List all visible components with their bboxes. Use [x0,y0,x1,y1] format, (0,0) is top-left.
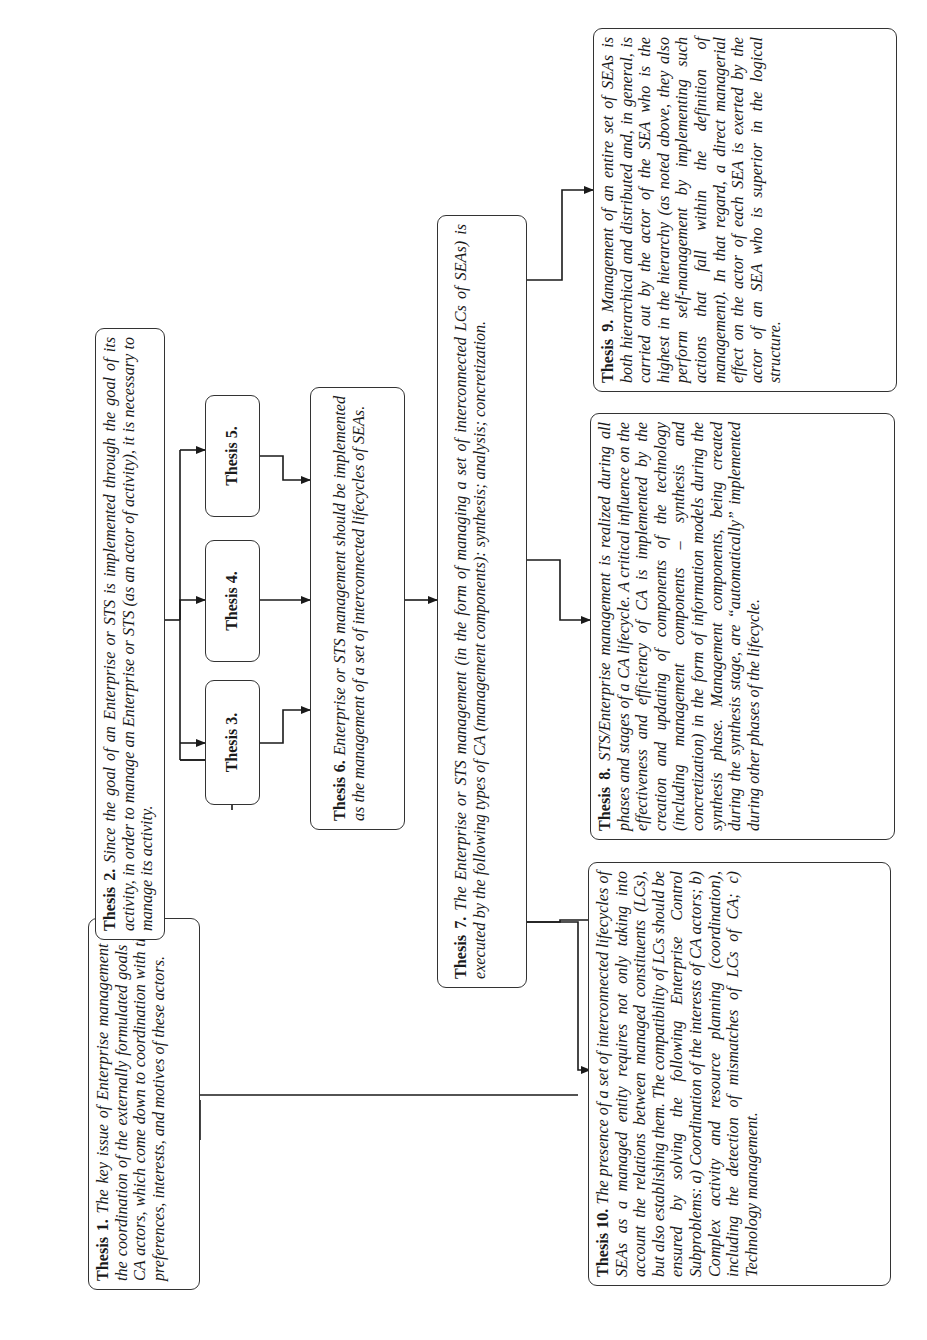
thesis-10-box: Thesis 10. The presence of a set of inte… [588,862,891,1286]
thesis-8-box: Thesis 8. STS/Enterprise management is r… [590,413,895,840]
thesis-2-text: Since the goal of an Enterprise or STS i… [101,337,156,931]
thesis-10-text: The presence of a set of interconnected … [594,871,761,1277]
thesis-7-text: The Enterprise or STS management (in the… [452,224,489,979]
thesis-2-box: Thesis 2. Since the goal of an Enterpris… [95,328,165,940]
thesis-7-label: Thesis 7. [452,917,470,979]
thesis-9-text: Management of an entire set of SEAs is b… [599,37,784,383]
thesis-4-label: Thesis 4. [223,571,242,631]
thesis-3-label: Thesis 3. [223,713,242,773]
diagram-canvas: Thesis 1. The key issue of Enterprise ma… [0,0,927,1340]
thesis-4-box: Thesis 4. [205,540,260,662]
thesis-2-label: Thesis 2. [101,869,119,931]
thesis-6-text: Enterprise or STS management should be i… [331,396,368,821]
thesis-6-box: Thesis 6. Enterprise or STS management s… [310,387,405,830]
thesis-1-box: Thesis 1. The key issue of Enterprise ma… [88,918,200,1290]
thesis-5-box: Thesis 5. [205,395,260,517]
thesis-5-label: Thesis 5. [223,426,242,486]
thesis-8-label: Thesis 8. [596,768,614,831]
thesis-6-label: Thesis 6. [331,760,349,821]
thesis-8-text: STS/Enterprise management is realized du… [596,422,763,831]
thesis-9-box: Thesis 9. Management of an entire set of… [593,28,897,392]
thesis-1-label: Thesis 1. [94,1219,112,1281]
thesis-10-label: Thesis 10. [594,1209,612,1277]
thesis-9-label: Thesis 9. [599,320,617,383]
thesis-7-box: Thesis 7. The Enterprise or STS manageme… [437,215,527,988]
thesis-3-box: Thesis 3. [205,680,260,805]
